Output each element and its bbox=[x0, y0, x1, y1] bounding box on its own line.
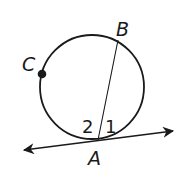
label-a: A bbox=[86, 147, 101, 169]
label-angle-1: 1 bbox=[105, 116, 116, 137]
label-c: C bbox=[22, 53, 36, 75]
point-c-dot bbox=[38, 70, 47, 79]
label-b: B bbox=[116, 18, 129, 40]
geometry-diagram: C B A 2 1 bbox=[0, 0, 187, 176]
label-angle-2: 2 bbox=[82, 116, 93, 137]
